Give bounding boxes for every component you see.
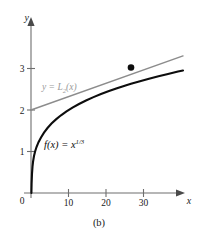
tangent-label-tail: (x) bbox=[66, 82, 77, 93]
tangent-line-approximation-chart: 10 20 30 3 2 1 0 y x y = L2(x) f(x) = x1… bbox=[0, 0, 198, 241]
y-tick-label-1: 1 bbox=[20, 147, 25, 157]
x-axis-arrowhead bbox=[176, 189, 185, 196]
y-tick-label-3: 3 bbox=[20, 64, 25, 74]
x-tick-label-30: 30 bbox=[139, 198, 149, 208]
tangent-line-label: y = L2(x) bbox=[41, 82, 77, 94]
function-label-exponent: 1/3 bbox=[76, 138, 85, 145]
x-tick-label-20: 20 bbox=[101, 198, 111, 208]
figure-panel: 10 20 30 3 2 1 0 y x y = L2(x) f(x) = x1… bbox=[0, 0, 198, 241]
y-axis-label: y bbox=[24, 12, 30, 23]
origin-label: 0 bbox=[20, 196, 25, 206]
axes-group bbox=[24, 17, 185, 198]
x-axis-label: x bbox=[186, 195, 192, 206]
tangent-label-main: y = L bbox=[41, 82, 63, 92]
figure-caption: (b) bbox=[93, 217, 106, 229]
tangency-point-dot bbox=[128, 64, 135, 71]
function-label: f(x) = x1/3 bbox=[44, 138, 85, 151]
y-tick-label-2: 2 bbox=[20, 106, 25, 116]
function-label-main: f(x) = x bbox=[44, 139, 76, 151]
x-tick-label-10: 10 bbox=[64, 198, 74, 208]
